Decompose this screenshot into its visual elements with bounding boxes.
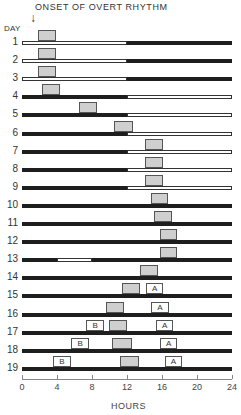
day-label: 16 <box>2 309 18 319</box>
x-tick-label: 0 <box>12 382 32 392</box>
day-bar <box>22 77 232 81</box>
x-tick-label: 4 <box>47 382 67 392</box>
day-label: 19 <box>2 363 18 373</box>
activity-block <box>42 84 60 95</box>
activity-block <box>122 283 140 294</box>
day-bar <box>22 258 232 262</box>
x-tick-label: 20 <box>187 382 207 392</box>
day-bar <box>22 222 232 226</box>
day-bar <box>22 113 232 117</box>
day-label: 8 <box>2 164 18 174</box>
activity-block <box>106 302 124 313</box>
activity-block <box>151 193 169 204</box>
dark-segment <box>22 222 232 226</box>
day-bar <box>22 186 232 190</box>
dark-segment <box>22 349 232 353</box>
day-bar <box>22 59 232 63</box>
label-block-b: B <box>86 320 104 331</box>
label-block-a: A <box>160 338 177 349</box>
day-bar <box>22 240 232 244</box>
x-tick <box>232 375 233 379</box>
light-segment <box>127 186 232 190</box>
label-block-b: B <box>71 338 89 349</box>
day-label: 17 <box>2 327 18 337</box>
activity-block <box>145 175 163 186</box>
day-label: 2 <box>2 55 18 65</box>
dark-segment <box>22 331 232 335</box>
label-block-a: A <box>146 283 163 294</box>
day-label: 11 <box>2 218 18 228</box>
day-bar <box>22 313 232 317</box>
x-tick-label: 12 <box>117 382 137 392</box>
dark-segment <box>22 258 232 262</box>
x-axis-line <box>22 379 232 380</box>
activity-block <box>109 320 127 331</box>
day-bar <box>22 294 232 298</box>
activity-block <box>140 265 158 276</box>
onset-arrow-icon: ↓ <box>30 12 36 24</box>
day-label: 7 <box>2 146 18 156</box>
day-bar <box>22 95 232 99</box>
light-segment <box>57 258 92 262</box>
day-label: 1 <box>2 37 18 47</box>
activity-block <box>145 139 163 150</box>
day-label: 4 <box>2 91 18 101</box>
day-label: 15 <box>2 290 18 300</box>
x-tick <box>162 375 163 379</box>
dark-segment <box>22 240 232 244</box>
light-segment <box>127 168 232 172</box>
day-bar <box>22 204 232 208</box>
day-bar <box>22 367 232 371</box>
light-segment <box>22 77 127 81</box>
day-bar <box>22 132 232 136</box>
x-tick <box>127 375 128 379</box>
dark-segment <box>22 294 232 298</box>
label-block-a: A <box>165 356 183 367</box>
activity-block <box>160 247 177 258</box>
x-tick <box>197 375 198 379</box>
x-tick <box>22 375 23 379</box>
x-tick-label: 16 <box>152 382 172 392</box>
day-label: 14 <box>2 272 18 282</box>
day-bar <box>22 150 232 154</box>
figure-title: ONSET OF OVERT RHYTHM <box>35 2 168 12</box>
light-segment <box>22 59 127 63</box>
dark-segment <box>22 313 232 317</box>
dark-segment <box>22 367 232 371</box>
label-block-a: A <box>156 320 174 331</box>
light-segment <box>127 150 232 154</box>
day-label: 18 <box>2 345 18 355</box>
x-tick <box>57 375 58 379</box>
activity-block <box>154 211 172 222</box>
activity-block <box>114 121 133 132</box>
label-block-a: A <box>151 302 169 313</box>
day-label: 10 <box>2 200 18 210</box>
dark-segment <box>22 204 232 208</box>
activity-block <box>145 157 163 168</box>
activity-block <box>79 102 97 113</box>
day-label: 6 <box>2 128 18 138</box>
x-tick-label: 24 <box>222 382 241 392</box>
light-segment <box>22 41 127 45</box>
day-bar <box>22 41 232 45</box>
day-label: 3 <box>2 73 18 83</box>
dark-segment <box>22 276 232 280</box>
label-block-b: B <box>53 356 71 367</box>
day-label: 13 <box>2 254 18 264</box>
activity-block <box>38 48 56 59</box>
x-axis-label: HOURS <box>111 401 146 411</box>
activity-block <box>120 356 139 367</box>
day-bar <box>22 349 232 353</box>
light-segment <box>127 113 232 117</box>
activity-block <box>38 66 56 77</box>
day-label: 5 <box>2 109 18 119</box>
x-tick <box>92 375 93 379</box>
light-segment <box>127 132 232 136</box>
day-bar <box>22 276 232 280</box>
day-bar <box>22 331 232 335</box>
activity-block <box>38 30 56 41</box>
day-bar <box>22 168 232 172</box>
x-tick-label: 8 <box>82 382 102 392</box>
day-label: 9 <box>2 182 18 192</box>
day-label: 12 <box>2 236 18 246</box>
